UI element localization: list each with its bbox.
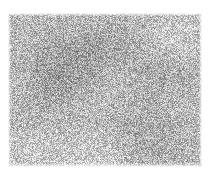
noise-texture-frame: [8, 13, 202, 167]
noise-texture-image: [8, 13, 202, 167]
image-canvas: [0, 0, 208, 174]
